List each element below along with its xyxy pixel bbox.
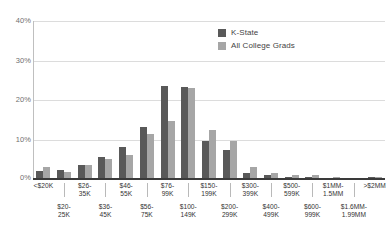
bar-kstate — [161, 86, 168, 179]
legend-swatch-icon-kstate — [218, 29, 226, 37]
legend-label-all-college-grads: All College Grads — [231, 41, 295, 50]
bar-group — [74, 21, 95, 179]
bar-group — [137, 21, 158, 179]
income-distribution-bar-chart: 40% 30% 20% 10% 0% K-State All College G… — [0, 0, 390, 231]
y-axis-labels: 40% 30% 20% 10% 0% — [0, 0, 31, 231]
y-tick-30: 30% — [1, 57, 31, 65]
y-axis-line — [33, 21, 34, 179]
bar-group — [344, 21, 365, 179]
bar-all-college-grads — [230, 141, 237, 179]
bar-all-college-grads — [188, 88, 195, 179]
bar-group — [95, 21, 116, 179]
x-axis-category-label: >$2MM — [364, 180, 385, 231]
legend-item-all-college-grads: All College Grads — [218, 39, 295, 52]
x-axis-category-text: >$2MM — [353, 182, 390, 190]
bar-group — [302, 21, 323, 179]
bar-kstate — [78, 165, 85, 179]
y-tick-10: 10% — [1, 136, 31, 144]
bar-group — [323, 21, 344, 179]
bar-kstate — [119, 147, 126, 179]
bar-group — [199, 21, 220, 179]
bar-group — [364, 21, 385, 179]
bar-kstate — [98, 157, 105, 180]
plot-area — [33, 21, 385, 179]
bar-group — [116, 21, 137, 179]
bar-kstate — [140, 127, 147, 179]
chart-legend: K-State All College Grads — [218, 26, 295, 52]
bar-group — [178, 21, 199, 179]
y-tick-0: 0% — [1, 174, 31, 182]
bar-all-college-grads — [85, 165, 92, 179]
bar-all-college-grads — [168, 121, 175, 179]
bar-all-college-grads — [126, 155, 133, 179]
legend-swatch-icon-all-college-grads — [218, 42, 226, 50]
bar-all-college-grads — [147, 134, 154, 179]
bar-group — [157, 21, 178, 179]
legend-item-kstate: K-State — [218, 26, 295, 39]
legend-label-kstate: K-State — [231, 28, 258, 37]
bar-groups — [33, 21, 385, 179]
bar-group — [54, 21, 75, 179]
bar-kstate — [202, 141, 209, 179]
bar-all-college-grads — [105, 159, 112, 179]
bar-kstate — [181, 87, 188, 179]
x-axis-labels: <$20K$20- 25K$26- 35K$36- 45K$46- 55K$56… — [33, 180, 385, 231]
bar-all-college-grads — [209, 130, 216, 179]
bar-group — [33, 21, 54, 179]
bar-kstate — [223, 150, 230, 179]
y-tick-40: 40% — [1, 17, 31, 25]
y-tick-20: 20% — [1, 96, 31, 104]
